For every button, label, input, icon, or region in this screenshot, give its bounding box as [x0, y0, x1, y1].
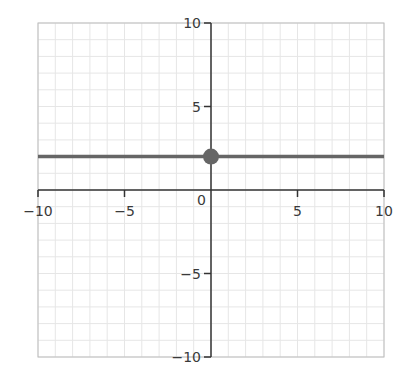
- x-tick-label: 10: [375, 203, 393, 219]
- coordinate-plane: −10−50510−10−5510: [0, 0, 410, 384]
- point-marker-y-intercept: [203, 149, 219, 165]
- y-tick-label: −10: [171, 349, 201, 365]
- x-tick-label: −5: [114, 203, 135, 219]
- y-tick-label: −5: [180, 266, 201, 282]
- y-tick-label: 5: [192, 99, 201, 115]
- x-tick-label: 0: [197, 192, 206, 208]
- x-tick-label: −10: [23, 203, 53, 219]
- y-tick-label: 10: [183, 15, 201, 31]
- x-tick-label: 5: [293, 203, 302, 219]
